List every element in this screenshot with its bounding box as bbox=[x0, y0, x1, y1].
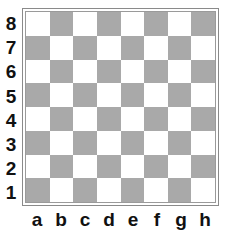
rank-label-8: 8 bbox=[4, 14, 18, 33]
square-a5[interactable] bbox=[26, 83, 50, 107]
square-g7[interactable] bbox=[168, 36, 192, 60]
square-e1[interactable] bbox=[121, 178, 145, 202]
square-b2[interactable] bbox=[50, 155, 74, 179]
file-label-f: f bbox=[145, 210, 169, 229]
rank-label-7: 7 bbox=[4, 38, 18, 57]
square-a6[interactable] bbox=[26, 60, 50, 84]
square-h6[interactable] bbox=[191, 60, 215, 84]
square-f5[interactable] bbox=[144, 83, 168, 107]
square-d6[interactable] bbox=[97, 60, 121, 84]
file-label-g: g bbox=[169, 210, 193, 229]
rank-label-5: 5 bbox=[4, 87, 18, 106]
square-d5[interactable] bbox=[97, 83, 121, 107]
square-a4[interactable] bbox=[26, 107, 50, 131]
square-e4[interactable] bbox=[121, 107, 145, 131]
square-e2[interactable] bbox=[121, 155, 145, 179]
square-a8[interactable] bbox=[26, 12, 50, 36]
square-f8[interactable] bbox=[144, 12, 168, 36]
file-label-c: c bbox=[73, 210, 97, 229]
square-g2[interactable] bbox=[168, 155, 192, 179]
file-label-a: a bbox=[25, 210, 49, 229]
square-a2[interactable] bbox=[26, 155, 50, 179]
file-label-h: h bbox=[193, 210, 217, 229]
square-a3[interactable] bbox=[26, 131, 50, 155]
square-e3[interactable] bbox=[121, 131, 145, 155]
rank-label-3: 3 bbox=[4, 135, 18, 154]
square-d4[interactable] bbox=[97, 107, 121, 131]
rank-label-2: 2 bbox=[4, 159, 18, 178]
square-h2[interactable] bbox=[191, 155, 215, 179]
square-e5[interactable] bbox=[121, 83, 145, 107]
square-b3[interactable] bbox=[50, 131, 74, 155]
square-c1[interactable] bbox=[73, 178, 97, 202]
square-h4[interactable] bbox=[191, 107, 215, 131]
rank-label-6: 6 bbox=[4, 62, 18, 81]
square-d7[interactable] bbox=[97, 36, 121, 60]
square-h7[interactable] bbox=[191, 36, 215, 60]
square-b1[interactable] bbox=[50, 178, 74, 202]
square-f3[interactable] bbox=[144, 131, 168, 155]
square-h1[interactable] bbox=[191, 178, 215, 202]
square-b6[interactable] bbox=[50, 60, 74, 84]
chessboard-grid bbox=[25, 11, 216, 203]
square-c6[interactable] bbox=[73, 60, 97, 84]
rank-label-4: 4 bbox=[4, 111, 18, 130]
square-c8[interactable] bbox=[73, 12, 97, 36]
square-b7[interactable] bbox=[50, 36, 74, 60]
square-c7[interactable] bbox=[73, 36, 97, 60]
square-c3[interactable] bbox=[73, 131, 97, 155]
square-c2[interactable] bbox=[73, 155, 97, 179]
square-f6[interactable] bbox=[144, 60, 168, 84]
square-f4[interactable] bbox=[144, 107, 168, 131]
square-c5[interactable] bbox=[73, 83, 97, 107]
square-g1[interactable] bbox=[168, 178, 192, 202]
square-f2[interactable] bbox=[144, 155, 168, 179]
square-e8[interactable] bbox=[121, 12, 145, 36]
square-d3[interactable] bbox=[97, 131, 121, 155]
square-g8[interactable] bbox=[168, 12, 192, 36]
square-b8[interactable] bbox=[50, 12, 74, 36]
square-h3[interactable] bbox=[191, 131, 215, 155]
square-f7[interactable] bbox=[144, 36, 168, 60]
square-g5[interactable] bbox=[168, 83, 192, 107]
square-e7[interactable] bbox=[121, 36, 145, 60]
square-h8[interactable] bbox=[191, 12, 215, 36]
square-e6[interactable] bbox=[121, 60, 145, 84]
square-b4[interactable] bbox=[50, 107, 74, 131]
square-a1[interactable] bbox=[26, 178, 50, 202]
square-b5[interactable] bbox=[50, 83, 74, 107]
square-f1[interactable] bbox=[144, 178, 168, 202]
square-a7[interactable] bbox=[26, 36, 50, 60]
chessboard bbox=[22, 8, 219, 206]
square-d1[interactable] bbox=[97, 178, 121, 202]
square-d2[interactable] bbox=[97, 155, 121, 179]
square-g4[interactable] bbox=[168, 107, 192, 131]
square-g6[interactable] bbox=[168, 60, 192, 84]
square-d8[interactable] bbox=[97, 12, 121, 36]
square-c4[interactable] bbox=[73, 107, 97, 131]
file-label-d: d bbox=[97, 210, 121, 229]
square-h5[interactable] bbox=[191, 83, 215, 107]
file-label-e: e bbox=[121, 210, 145, 229]
square-g3[interactable] bbox=[168, 131, 192, 155]
rank-label-1: 1 bbox=[4, 183, 18, 202]
file-label-b: b bbox=[49, 210, 73, 229]
